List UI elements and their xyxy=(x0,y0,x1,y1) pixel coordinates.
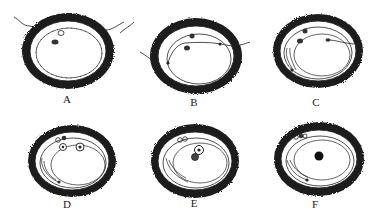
male-pronucleus-dot xyxy=(79,146,82,149)
panel-label-f: F xyxy=(305,198,325,210)
spindle xyxy=(52,40,59,45)
panel-c-egg xyxy=(273,14,363,88)
female-pronucleus-dot xyxy=(62,146,64,148)
panel-label-a: A xyxy=(57,93,77,105)
zona-pellucida xyxy=(280,21,356,81)
zona-pellucida xyxy=(158,26,234,86)
panel-f-egg xyxy=(274,122,364,196)
spindle xyxy=(184,46,190,51)
sperm-head-bottom xyxy=(57,180,60,183)
zygote-nucleus xyxy=(315,152,324,161)
zona-pellucida xyxy=(30,21,106,81)
panel-label-e: E xyxy=(184,197,204,209)
sperm-head-right xyxy=(218,42,221,45)
panel-label-c: C xyxy=(306,96,326,108)
sperm-tail-outer-left xyxy=(120,22,134,33)
sperm-tail-right xyxy=(106,22,124,30)
panel-a-egg xyxy=(14,13,124,89)
panel-label-b: B xyxy=(184,96,204,108)
female-pronucleus xyxy=(297,39,303,44)
polar-body xyxy=(190,34,195,39)
pronucleus-lower xyxy=(192,154,199,161)
fertilization-diagram xyxy=(0,0,371,220)
panel-e-egg xyxy=(151,124,239,198)
male-pronucleus xyxy=(326,38,331,42)
sperm-head-left xyxy=(166,61,169,64)
panel-b-egg xyxy=(120,18,250,94)
sperm-head-bottom xyxy=(290,68,293,71)
pronucleus-upper-dot xyxy=(197,148,200,151)
sperm-head-bottom xyxy=(305,178,308,181)
panel-d-egg xyxy=(28,125,116,197)
polar-body xyxy=(303,29,308,34)
panel-label-d: D xyxy=(57,198,77,210)
zona-pellucida xyxy=(35,132,109,190)
polar-body-2 xyxy=(62,136,67,141)
